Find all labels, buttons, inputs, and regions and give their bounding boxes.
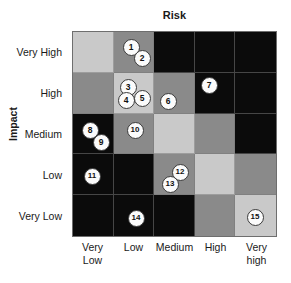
- matrix-cell-2-1: [73, 73, 114, 114]
- risk-item-bubble-11[interactable]: 11: [84, 168, 101, 185]
- matrix-cell-4-2: [114, 154, 155, 195]
- risk-item-bubble-15[interactable]: 15: [247, 209, 264, 226]
- risk-item-bubble-14[interactable]: 14: [128, 210, 145, 227]
- y-axis-tick-labels: Very High High Medium Low Very Low: [0, 31, 67, 237]
- chart-title: Risk: [72, 9, 277, 21]
- matrix-cell-1-3: [154, 32, 195, 73]
- matrix-cell-5-3: [154, 195, 195, 236]
- x-axis-tick-high: High: [195, 240, 236, 280]
- matrix-cell-1-1: [73, 32, 114, 73]
- y-axis-tick-high: High: [0, 72, 67, 113]
- y-axis-tick-medium: Medium: [0, 113, 67, 154]
- matrix-cell-4-5: [235, 154, 276, 195]
- x-axis-tick-very-low: Very Low: [72, 240, 113, 280]
- y-axis-tick-very-high: Very High: [0, 31, 67, 72]
- matrix-cell-3-3: [154, 114, 195, 155]
- y-axis-tick-very-low: Very Low: [0, 196, 67, 237]
- risk-item-bubble-5[interactable]: 5: [134, 90, 151, 107]
- risk-impact-matrix-chart: Risk Impact Very High High Medium Low Ve…: [0, 0, 291, 283]
- matrix-cell-1-4: [195, 32, 236, 73]
- x-axis-tick-very-high: Very high: [236, 240, 277, 280]
- matrix-cell-3-4: [195, 114, 236, 155]
- x-axis-tick-labels: Very Low Low Medium High Very high: [72, 240, 277, 280]
- matrix-cell-5-4: [195, 195, 236, 236]
- matrix-cell-5-1: [73, 195, 114, 236]
- matrix-cell-3-5: [235, 114, 276, 155]
- risk-item-bubble-9[interactable]: 9: [93, 134, 110, 151]
- risk-item-bubble-2[interactable]: 2: [134, 50, 151, 67]
- matrix-cell-2-5: [235, 73, 276, 114]
- risk-item-bubble-4[interactable]: 4: [118, 92, 135, 109]
- x-axis-tick-medium: Medium: [154, 240, 195, 280]
- x-axis-tick-low: Low: [113, 240, 154, 280]
- matrix-cell-4-4: [195, 154, 236, 195]
- risk-item-bubble-13[interactable]: 13: [162, 176, 179, 193]
- matrix-cell-1-5: [235, 32, 276, 73]
- risk-item-bubble-7[interactable]: 7: [201, 77, 218, 94]
- risk-item-bubble-6[interactable]: 6: [160, 93, 177, 110]
- risk-item-bubble-10[interactable]: 10: [127, 122, 144, 139]
- y-axis-tick-low: Low: [0, 155, 67, 196]
